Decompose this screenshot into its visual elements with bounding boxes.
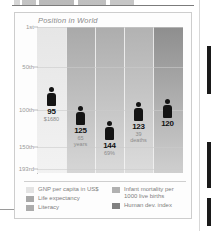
person-body-icon bbox=[105, 127, 114, 140]
person-body-icon bbox=[76, 112, 85, 125]
column-separator bbox=[124, 27, 125, 173]
page-right-margin bbox=[199, 0, 214, 231]
person-body-icon bbox=[163, 105, 172, 118]
column-life-expectancy bbox=[66, 27, 95, 173]
rank-value: 123 bbox=[124, 122, 153, 131]
page-edge-mark bbox=[207, 46, 211, 94]
legend-swatch-icon bbox=[26, 205, 34, 211]
gridline bbox=[37, 169, 183, 170]
detail-value: 69% bbox=[95, 150, 124, 156]
y-tick-label-50th: 50th bbox=[22, 64, 34, 70]
detail-value: $1680 bbox=[37, 116, 66, 122]
y-tick-dash bbox=[34, 147, 38, 148]
legend-column-left: GNP per capita in US$ Life expectancy Li… bbox=[26, 186, 110, 213]
legend-item-human-dev-index: Human dev. index bbox=[112, 202, 188, 209]
chart-figure: Position in World 1st 50th 100th 150th 1… bbox=[14, 12, 192, 219]
data-point-life-expectancy: 125 65 years bbox=[66, 106, 95, 147]
gridline bbox=[37, 67, 183, 68]
plot-title: Position in World bbox=[38, 16, 98, 25]
person-head-icon bbox=[78, 106, 83, 111]
legend-item-literacy: Literacy bbox=[26, 204, 110, 211]
legend-item-infant-mortality: Infant mortality per 1000 live births bbox=[112, 186, 188, 200]
legend-swatch-icon bbox=[112, 187, 120, 193]
column-separator bbox=[66, 27, 67, 173]
gridline bbox=[37, 27, 183, 28]
legend-swatch-icon bbox=[26, 187, 34, 193]
legend-column-right: Infant mortality per 1000 live births Hu… bbox=[112, 186, 188, 211]
legend-label: GNP per capita in US$ bbox=[38, 186, 99, 193]
data-point-gnp-per-capita: 95 $1680 bbox=[37, 87, 66, 122]
legend-label: Life expectancy bbox=[38, 195, 80, 202]
column-infant-mortality bbox=[124, 27, 153, 173]
y-tick-label-150th: 150th bbox=[19, 144, 34, 150]
legend-item-gnp-per-capita: GNP per capita in US$ bbox=[26, 186, 110, 193]
legend-label: Infant mortality per 1000 live births bbox=[124, 186, 188, 200]
plot-area: 1st 50th 100th 150th 193rd 95 $1680 125 … bbox=[37, 27, 183, 173]
detail-unit: deaths bbox=[124, 137, 153, 143]
y-tick-dash bbox=[34, 169, 38, 170]
y-tick-dash bbox=[34, 67, 38, 68]
data-point-literacy: 144 69% bbox=[95, 121, 124, 156]
data-point-human-dev-index: 120 bbox=[153, 99, 182, 128]
legend-label: Literacy bbox=[38, 204, 59, 211]
detail-unit: years bbox=[66, 141, 95, 147]
y-tick-label-100th: 100th bbox=[19, 107, 34, 113]
legend-label: Human dev. index bbox=[124, 202, 172, 209]
person-body-icon bbox=[47, 93, 56, 106]
person-head-icon bbox=[136, 102, 141, 107]
heading-rule bbox=[12, 5, 194, 6]
page-edge-mark bbox=[207, 142, 211, 188]
chart-legend: GNP per capita in US$ Life expectancy Li… bbox=[24, 181, 186, 218]
legend-swatch-icon bbox=[112, 203, 120, 209]
person-body-icon bbox=[134, 108, 143, 121]
rank-value: 120 bbox=[153, 119, 182, 128]
y-tick-dash bbox=[34, 27, 38, 28]
legend-item-life-expectancy: Life expectancy bbox=[26, 195, 110, 202]
person-head-icon bbox=[165, 99, 170, 104]
person-head-icon bbox=[49, 87, 54, 92]
legend-swatch-icon bbox=[26, 196, 34, 202]
rank-value: 95 bbox=[37, 107, 66, 116]
person-head-icon bbox=[107, 121, 112, 126]
page-edge-mark bbox=[207, 198, 211, 226]
y-tick-label-1st: 1st bbox=[26, 24, 34, 30]
y-tick-label-193rd: 193rd bbox=[19, 166, 34, 172]
data-point-infant-mortality: 123 39 deaths bbox=[124, 102, 153, 143]
rank-value: 144 bbox=[95, 141, 124, 150]
rank-value: 125 bbox=[66, 126, 95, 135]
